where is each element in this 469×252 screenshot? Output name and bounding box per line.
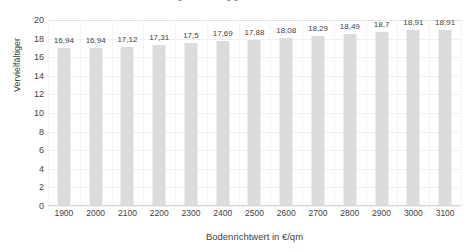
bar-slot: 18,91 (429, 20, 461, 206)
x-tick-label: 3000 (404, 208, 423, 218)
bar-value-label: 16,94 (86, 36, 106, 45)
bar-value-label: 18,49 (340, 22, 360, 31)
y-tick-label: 8 (39, 127, 44, 137)
gridline (48, 206, 461, 207)
x-axis-line (48, 205, 461, 206)
y-axis-title: Vervielfältiger (12, 0, 22, 130)
bar (121, 47, 134, 206)
bar-slot: 17,88 (239, 20, 271, 206)
x-axis-tick-labels: 1900200021002200230024002500260027002800… (48, 208, 461, 222)
bar-slot: 18,91 (397, 20, 429, 206)
y-tick-label: 12 (34, 89, 44, 99)
bar-value-label: 18,91 (435, 18, 455, 27)
y-tick-label: 20 (34, 15, 44, 25)
bar-value-label: 18,7 (374, 20, 390, 29)
x-tick-label: 3100 (436, 208, 455, 218)
bar-value-label: 18,91 (403, 18, 423, 27)
y-tick-label: 2 (39, 182, 44, 192)
bar (407, 30, 420, 206)
bar (280, 38, 293, 206)
bar-slot: 18,29 (302, 20, 334, 206)
x-tick-label: 2100 (118, 208, 137, 218)
bar-slot: 17,31 (143, 20, 175, 206)
y-tick-label: 6 (39, 145, 44, 155)
bar-slot: 18,7 (366, 20, 398, 206)
bar-slot: 17,5 (175, 20, 207, 206)
bar-chart: Vervielfältiger in Abhängigkeit vom Bode… (0, 0, 469, 252)
x-tick-label: 2800 (340, 208, 359, 218)
plot-area: 16,9416,9417,1217,3117,517,6917,8818,081… (48, 20, 461, 206)
bar-value-label: 18,08 (276, 26, 296, 35)
bar (216, 41, 229, 206)
x-tick-label: 2700 (309, 208, 328, 218)
bar-value-label: 18,29 (308, 24, 328, 33)
y-tick-label: 16 (34, 52, 44, 62)
x-tick-label: 2600 (277, 208, 296, 218)
bar (439, 30, 452, 206)
bar (343, 34, 356, 206)
bar (375, 32, 388, 206)
x-tick-label: 2400 (213, 208, 232, 218)
bar-series: 16,9416,9417,1217,3117,517,6917,8818,081… (48, 20, 461, 206)
bar-slot: 18,08 (270, 20, 302, 206)
bar-value-label: 17,5 (183, 31, 199, 40)
x-tick-label: 2000 (86, 208, 105, 218)
bar-value-label: 17,88 (244, 28, 264, 37)
x-tick-label: 1900 (54, 208, 73, 218)
x-tick-label: 2300 (181, 208, 200, 218)
bar (153, 45, 166, 206)
bar (248, 40, 261, 206)
bar-slot: 18,49 (334, 20, 366, 206)
bar (89, 48, 102, 206)
bar-value-label: 17,69 (213, 29, 233, 38)
bar-slot: 16,94 (48, 20, 80, 206)
y-axis-tick-labels: 02468101214161820 (24, 14, 44, 206)
chart-title-text: Vervielfältiger in Abhängigkeit vom Bode… (138, 0, 332, 1)
x-tick-label: 2200 (150, 208, 169, 218)
bar (312, 36, 325, 206)
bar-value-label: 17,31 (149, 33, 169, 42)
x-tick-label: 2900 (372, 208, 391, 218)
vertical-gridline (461, 20, 462, 206)
bar-slot: 17,12 (112, 20, 144, 206)
bar (57, 48, 70, 206)
y-tick-label: 4 (39, 164, 44, 174)
x-axis-title: Bodenrichtwert in €/qm (48, 231, 461, 242)
bar-slot: 16,94 (80, 20, 112, 206)
y-tick-label: 10 (34, 108, 44, 118)
bar-value-label: 16,94 (54, 36, 74, 45)
y-tick-label: 14 (34, 71, 44, 81)
y-tick-label: 0 (39, 201, 44, 211)
y-tick-label: 18 (34, 34, 44, 44)
bar-value-label: 17,12 (117, 35, 137, 44)
bar (184, 43, 197, 206)
chart-title-clipped: Vervielfältiger in Abhängigkeit vom Bode… (0, 0, 469, 9)
x-tick-label: 2500 (245, 208, 264, 218)
bar-slot: 17,69 (207, 20, 239, 206)
